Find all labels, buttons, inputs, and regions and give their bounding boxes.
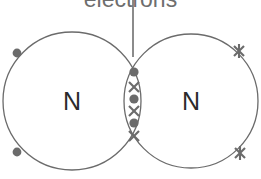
shared-electron-dot-3: [129, 118, 138, 127]
diagram-canvas: N N: [0, 0, 261, 179]
right-atom-symbol: N: [182, 87, 200, 115]
left-atom-symbol: N: [63, 87, 81, 115]
lone-pair-dot-upper-left: [13, 49, 22, 58]
lone-pair-cross-lower-right: [235, 146, 245, 160]
shared-electron-cross-2: [129, 106, 139, 116]
shared-electron-dot-2: [129, 94, 138, 103]
shared-electron-dot-1: [129, 67, 138, 76]
lone-pair-dot-lower-left: [13, 148, 22, 157]
dot-and-cross-diagram: electrons N N: [0, 0, 261, 179]
shared-electron-cross-1: [129, 82, 139, 92]
